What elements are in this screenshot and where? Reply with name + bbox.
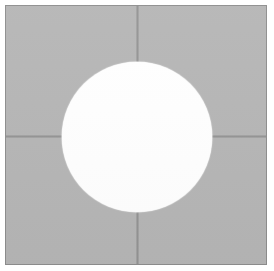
- scan-margin-bottom: [0, 265, 274, 271]
- scan-margin-left: [0, 0, 5, 271]
- gray-plate: [5, 5, 267, 265]
- circular-hole: [62, 62, 212, 212]
- scan-margin-top: [0, 0, 274, 5]
- figure-canvas: [0, 0, 274, 271]
- scan-margin-right: [267, 0, 274, 271]
